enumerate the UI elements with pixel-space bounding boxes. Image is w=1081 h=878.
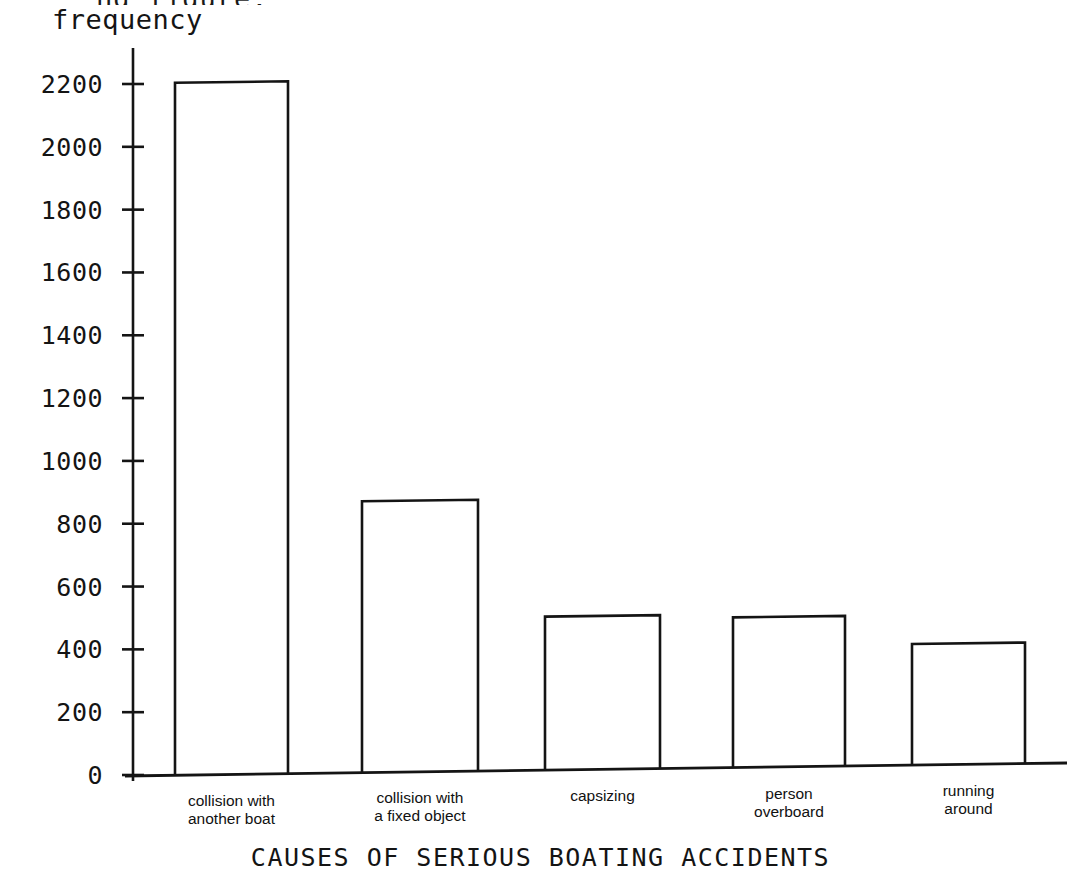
x-axis-category-label-line: running <box>859 782 1079 800</box>
axis-lines <box>125 48 1067 781</box>
bar <box>175 81 288 774</box>
bar <box>733 616 845 767</box>
x-axis-category-label-line: another boat <box>122 810 342 828</box>
y-axis-tick-label: 600 <box>56 573 103 602</box>
y-axis-tick-label: 1600 <box>41 258 103 287</box>
bar <box>362 500 478 772</box>
bar <box>912 643 1025 765</box>
y-axis-tick-label: 400 <box>56 635 103 664</box>
x-axis-category-label-line: collision with <box>122 792 342 810</box>
y-axis-tick-label: 2200 <box>41 70 103 99</box>
y-axis-tick-label: 1800 <box>41 196 103 225</box>
y-axis-tick-label: 1000 <box>41 447 103 476</box>
x-axis-category-label-line: a fixed object <box>310 807 530 825</box>
y-axis-tick-label: 200 <box>56 698 103 727</box>
x-axis-category-label-line: around <box>859 800 1079 818</box>
chart-page: ng figure. frequency 0200400600800100012… <box>0 0 1081 878</box>
x-axis-category-label: collision withanother boat <box>122 792 342 828</box>
y-axis-tick-label: 800 <box>56 510 103 539</box>
x-axis-category-label: runningaround <box>859 782 1079 818</box>
x-axis-line <box>125 763 1067 776</box>
chart-title: CAUSES OF SERIOUS BOATING ACCIDENTS <box>0 843 1081 872</box>
y-axis-tick-label: 2000 <box>41 133 103 162</box>
y-axis-tick-label: 1400 <box>41 321 103 350</box>
y-axis-tick-label: 0 <box>87 761 103 790</box>
bars-group <box>175 81 1025 774</box>
y-axis-ticks: 0200400600800100012001400160018002000220… <box>41 70 144 790</box>
bar <box>545 615 660 770</box>
y-axis-tick-label: 1200 <box>41 384 103 413</box>
bar-chart-plot: 0200400600800100012001400160018002000220… <box>0 0 1081 878</box>
